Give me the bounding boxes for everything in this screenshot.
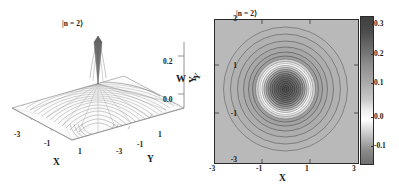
surface-z-tick-0: 0.2 (163, 58, 172, 66)
contour-y-tick-minus1: -1 (231, 110, 237, 118)
panel-surface-plot: |n = 2⟩ (0, 0, 200, 188)
contour-y-tick-3: 3 (233, 15, 237, 23)
surface-z-axis-label: W (176, 74, 186, 84)
colorbar-tick-0p1: 0.1 (374, 79, 383, 87)
surface-z-tick-1: 0.0 (163, 96, 172, 104)
surface-x-tick-1: -1 (44, 140, 50, 148)
surface-plot-canvas (8, 34, 188, 144)
contour-y-tick-minus3: -3 (231, 156, 237, 164)
figure-wigner-n2: |n = 2⟩ (0, 0, 399, 188)
colorbar-tick-minus0p1: -0.1 (374, 142, 386, 150)
surface-x-tick-0: -3 (14, 131, 20, 139)
colorbar-gradient (361, 17, 373, 164)
contour-x-tick-minus1: -1 (256, 165, 262, 173)
surface-x-tick-2: 1 (78, 148, 82, 156)
contour-y-axis-label: Y (189, 76, 199, 83)
surface-y-tick-0: -3 (116, 148, 122, 156)
contour-x-axis-label: X (279, 174, 286, 184)
surface-y-tick-2: 1 (158, 131, 162, 139)
panel-contour-plot: |n = 2⟩ (200, 0, 399, 188)
contour-x-tick-3: 3 (352, 165, 356, 173)
contour-plot-canvas (214, 19, 359, 164)
colorbar-tick-0p3: 0.3 (374, 20, 383, 28)
surface-central-peak (90, 36, 106, 84)
contour-x-tick-1: 1 (305, 165, 309, 173)
colorbar-tick-0p2: 0.2 (374, 50, 383, 58)
surface-x-axis-label: X (53, 158, 60, 168)
contour-y-tick-1: 1 (233, 62, 237, 70)
colorbar-tick-0p0: 0.0 (374, 113, 383, 121)
surface-plot-title: |n = 2⟩ (62, 20, 83, 28)
surface-y-tick-1: -1 (137, 141, 143, 149)
colorbar (360, 16, 374, 165)
surface-mesh-graphic (8, 34, 188, 144)
contour-rings-graphic (215, 20, 358, 163)
contour-x-tick-minus3: -3 (209, 165, 215, 173)
contour-plot-title: |n = 2⟩ (236, 10, 257, 18)
surface-y-axis-label: Y (147, 155, 154, 165)
